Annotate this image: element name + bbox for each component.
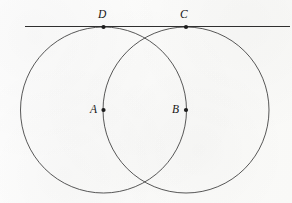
point-label-a: A bbox=[90, 104, 97, 116]
geometry-canvas bbox=[0, 0, 292, 203]
point-label-d: D bbox=[98, 9, 106, 21]
point-d-dot bbox=[101, 25, 105, 29]
point-label-c: C bbox=[180, 9, 188, 21]
point-b-dot bbox=[184, 108, 188, 112]
point-a-dot bbox=[101, 108, 105, 112]
point-c-dot bbox=[184, 25, 188, 29]
point-label-b: B bbox=[172, 104, 179, 116]
geometry-figure: D C A B bbox=[0, 0, 292, 203]
